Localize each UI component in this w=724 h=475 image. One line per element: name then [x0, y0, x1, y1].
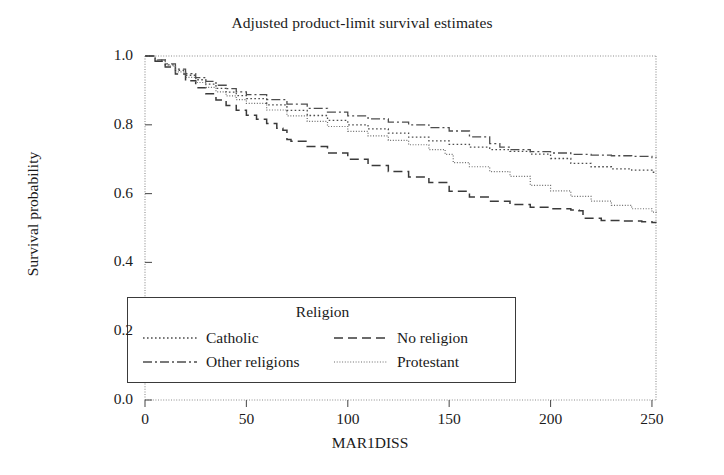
survival-curve-catholic — [145, 56, 656, 173]
legend-item-no-religion[interactable]: No religion — [333, 326, 468, 350]
legend-item-label: Protestant — [397, 353, 459, 371]
legend-item-catholic[interactable]: Catholic — [142, 326, 259, 350]
legend: Religion Catholic Other religions No rel… — [127, 297, 516, 383]
x-axis-tick-label: 250 — [622, 410, 682, 428]
legend-item-other-religions[interactable]: Other religions — [142, 350, 299, 374]
line-style-swatch-fine-dotted — [333, 356, 389, 368]
y-axis-tick-label: 0.8 — [87, 115, 133, 133]
y-axis-tick-label: 0.4 — [87, 252, 133, 270]
legend-item-protestant[interactable]: Protestant — [333, 350, 459, 374]
x-axis-tick-label: 50 — [216, 410, 276, 428]
x-axis-label: MAR1DISS — [270, 434, 470, 452]
legend-title: Religion — [128, 303, 517, 321]
y-axis-tick-label: 0.6 — [87, 184, 133, 202]
survival-curve-protestant — [145, 56, 656, 213]
figure: Adjusted product-limit survival estimate… — [0, 0, 724, 475]
x-axis-tick-label: 100 — [318, 410, 378, 428]
y-axis-tick-label: 0.2 — [87, 321, 133, 339]
legend-item-label: Catholic — [206, 329, 259, 347]
survival-curve-no-religion — [145, 56, 656, 223]
legend-item-label: Other religions — [206, 353, 299, 371]
y-axis-label: Survival probability — [24, 99, 42, 329]
y-axis-tick-label: 1.0 — [87, 46, 133, 64]
legend-item-label: No religion — [397, 329, 468, 347]
x-axis-tick-label: 200 — [521, 410, 581, 428]
line-style-swatch-dashed — [333, 332, 389, 344]
x-axis-tick-label: 0 — [115, 410, 175, 428]
survival-curve-other-religions — [145, 56, 656, 158]
x-axis-tick-label: 150 — [419, 410, 479, 428]
line-style-swatch-dotted — [142, 332, 198, 344]
y-axis-tick-label: 0.0 — [87, 390, 133, 408]
line-style-swatch-dashdot — [142, 356, 198, 368]
